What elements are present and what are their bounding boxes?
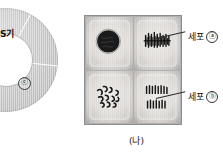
label-cell-a: 세포 ⓐ [188, 30, 218, 43]
interphase-nucleus-icon [86, 17, 133, 70]
s-phase-label: S기 [0, 27, 14, 40]
cell-cycle-diagram: S기 ⓒ [0, 8, 58, 112]
label-cell-a-marker: ⓐ [206, 31, 218, 43]
cell-tile-metaphase[interactable] [134, 17, 181, 70]
cycle-marker-c: ⓒ [18, 77, 31, 90]
prophase-chromosomes-icon [86, 71, 133, 124]
figure-caption: (나) [0, 134, 223, 147]
label-cell-a-text: 세포 [188, 30, 204, 43]
label-cell-b-text: 세포 [188, 90, 204, 103]
figure-caption-text: (나) [79, 136, 144, 146]
metaphase-plate-icon [134, 17, 181, 70]
label-cell-b: 세포 ⓑ [188, 90, 218, 103]
mitosis-stage-grid [84, 15, 182, 125]
cell-tile-interphase[interactable] [86, 17, 133, 70]
cell-tile-prophase[interactable] [86, 71, 133, 124]
label-cell-b-marker: ⓑ [206, 91, 218, 103]
